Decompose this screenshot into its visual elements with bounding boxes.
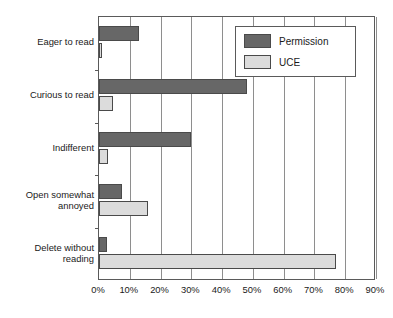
category-label-open-somewhat-annoyed: Open somewhat annoyed (2, 189, 94, 212)
bar-permission (99, 184, 122, 199)
bar-uce (99, 201, 148, 216)
legend-label-uce: UCE (279, 57, 300, 68)
gridline (376, 17, 377, 279)
bar-uce (99, 149, 108, 164)
category-row (99, 175, 374, 228)
bar-permission (99, 132, 191, 147)
legend-item-uce: UCE (244, 55, 300, 69)
category-label-curious-to-read: Curious to read (2, 89, 94, 101)
category-label-eager-to-read: Eager to read (2, 36, 94, 48)
category-row (99, 123, 374, 176)
legend-swatch-permission-icon (244, 34, 271, 48)
x-axis-tick-label: 90% (355, 284, 393, 295)
category-row (99, 228, 374, 281)
category-label-delete-without-reading: Delete without reading (2, 242, 94, 265)
bar-uce (99, 43, 102, 58)
bar-permission (99, 26, 139, 41)
bar-permission (99, 79, 247, 94)
bar-permission (99, 237, 107, 252)
category-row (99, 70, 374, 123)
category-label-indifferent: Indifferent (2, 142, 94, 154)
legend-label-permission: Permission (279, 36, 328, 47)
legend-item-permission: Permission (244, 34, 328, 48)
bar-uce (99, 254, 336, 269)
bar-uce (99, 96, 113, 111)
chart-legend: Permission UCE (235, 26, 356, 77)
legend-swatch-uce-icon (244, 55, 271, 69)
bar-chart: Eager to read Curious to read Indifferen… (0, 0, 393, 318)
